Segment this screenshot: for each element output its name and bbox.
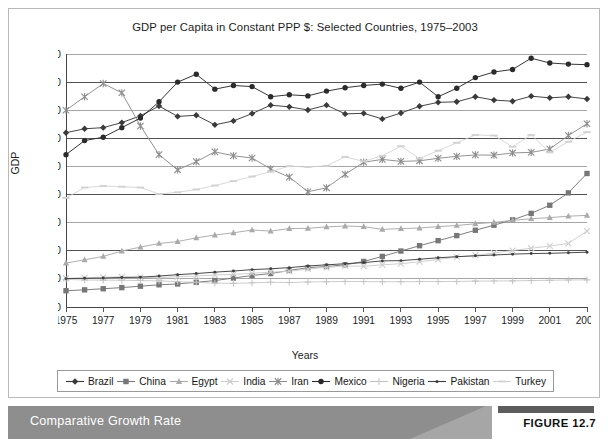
figure-caption-band: Comparative Growth Rate FIGURE 12.7 xyxy=(8,406,600,439)
legend-marker-circle-icon xyxy=(311,376,331,387)
x-tick-label: 1985 xyxy=(241,315,264,326)
legend-marker-plus-icon xyxy=(369,376,389,387)
series-india xyxy=(63,228,590,281)
legend-item-china[interactable]: China xyxy=(116,376,166,387)
legend-item-pakistan[interactable]: Pakistan xyxy=(427,376,489,387)
y-tick-label: 4,000 xyxy=(58,189,61,200)
legend-label: Mexico xyxy=(334,376,366,387)
figure-container: GDP per Capita in Constant PPP $: Select… xyxy=(0,0,609,447)
legend-label: Brazil xyxy=(88,376,113,387)
figure-number-tab xyxy=(498,406,594,413)
y-tick-label: 3,000 xyxy=(58,217,61,228)
legend-label: Iran xyxy=(291,376,309,387)
x-tick-label: 1979 xyxy=(129,315,152,326)
x-tick-label: 1991 xyxy=(352,315,375,326)
legend-marker-dot-icon xyxy=(427,376,447,387)
legend-marker-asterisk-icon xyxy=(268,376,288,387)
legend-marker-square-icon xyxy=(116,376,136,387)
legend-item-india[interactable]: India xyxy=(220,376,265,387)
legend-item-nigeria[interactable]: Nigeria xyxy=(369,376,424,387)
y-tick-label: 8,000 xyxy=(58,77,61,88)
chart-legend: BrazilChinaEgyptIndiaIranMexicoNigeriaPa… xyxy=(57,370,554,392)
legend-item-egypt[interactable]: Egypt xyxy=(169,376,218,387)
series-iran xyxy=(63,80,590,196)
legend-marker-diamond-icon xyxy=(65,376,85,387)
y-tick-label: 6,000 xyxy=(58,133,61,144)
legend-marker-x-icon xyxy=(220,376,240,387)
x-tick-label: 1981 xyxy=(166,315,189,326)
x-axis-title: Years xyxy=(9,349,601,361)
y-tick-label: 1,000 xyxy=(58,273,61,284)
series-brazil xyxy=(63,93,590,136)
x-tick-label: 1999 xyxy=(501,315,524,326)
series-pakistan xyxy=(65,251,589,280)
legend-label: Pakistan xyxy=(450,376,489,387)
x-tick-label: 1983 xyxy=(204,315,227,326)
x-tick-label: 1987 xyxy=(278,315,301,326)
x-tick-label: 1995 xyxy=(427,315,450,326)
legend-label: China xyxy=(139,376,166,387)
plot-area: 9,0008,0007,0006,0005,0004,0003,0002,000… xyxy=(58,46,591,331)
figure-number-box: FIGURE 12.7 xyxy=(492,406,600,439)
x-tick-label: 1993 xyxy=(390,315,413,326)
x-tick-label: 2001 xyxy=(538,315,561,326)
x-tick-label: 1977 xyxy=(92,315,115,326)
figure-number-label: FIGURE 12.7 xyxy=(523,417,596,429)
x-tick-label: 1975 xyxy=(58,315,78,326)
figure-caption-text: Comparative Growth Rate xyxy=(30,414,181,428)
y-axis-title: GDP xyxy=(9,123,21,203)
y-tick-label: 5,000 xyxy=(58,161,61,172)
legend-label: Egypt xyxy=(192,376,218,387)
legend-item-mexico[interactable]: Mexico xyxy=(311,376,366,387)
legend-label: Nigeria xyxy=(392,376,424,387)
x-tick-label: 1997 xyxy=(464,315,487,326)
y-tick-label: 0 xyxy=(58,302,61,313)
legend-item-iran[interactable]: Iran xyxy=(268,376,309,387)
y-tick-label: 7,000 xyxy=(58,105,61,116)
legend-label: Turkey xyxy=(515,376,546,387)
legend-marker-dash-icon xyxy=(492,376,512,387)
legend-marker-triangle-icon xyxy=(169,376,189,387)
x-tick-label: 1989 xyxy=(315,315,338,326)
chart-title: GDP per Capita in Constant PPP $: Select… xyxy=(9,21,601,33)
y-tick-label: 2,000 xyxy=(58,245,61,256)
legend-item-turkey[interactable]: Turkey xyxy=(492,376,546,387)
figure-frame: GDP per Capita in Constant PPP $: Select… xyxy=(8,8,600,398)
legend-label: India xyxy=(243,376,265,387)
x-tick-label: 2003 xyxy=(576,315,591,326)
line-chart-svg: 9,0008,0007,0006,0005,0004,0003,0002,000… xyxy=(58,46,591,331)
y-tick-label: 9,000 xyxy=(58,49,61,60)
legend-item-brazil[interactable]: Brazil xyxy=(65,376,113,387)
